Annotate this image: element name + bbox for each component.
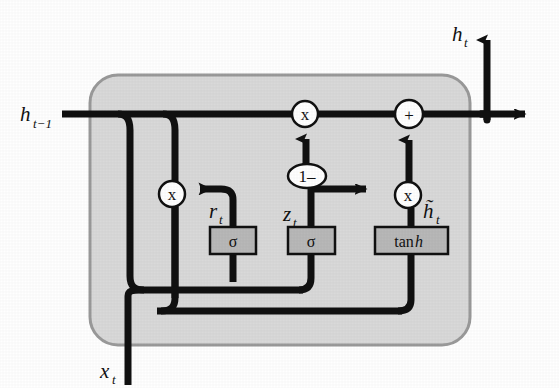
reset-gate-label: σ bbox=[229, 233, 238, 250]
label-output-hidden-state-subscript: t bbox=[464, 35, 468, 50]
label-prev-hidden-state: h t−1 bbox=[20, 102, 52, 131]
one-minus-symbol: 1– bbox=[299, 167, 317, 186]
label-input: x t bbox=[99, 359, 116, 387]
label-update-gate-base: z bbox=[282, 202, 291, 226]
forget-multiply-node[interactable]: x bbox=[292, 101, 318, 127]
one-minus-node[interactable]: 1– bbox=[288, 164, 326, 188]
gate-boxes-group: σ σ tan h bbox=[210, 227, 448, 254]
wire-output-corner bbox=[481, 114, 487, 120]
update-gate-box[interactable]: σ bbox=[288, 227, 335, 254]
label-input-base: x bbox=[99, 359, 110, 383]
candidate-multiply-node[interactable]: x bbox=[395, 182, 421, 208]
update-gate-label: σ bbox=[307, 233, 316, 250]
reset-gate-box[interactable]: σ bbox=[210, 227, 256, 254]
gru-diagram-figure: σ σ tan h x x x bbox=[0, 0, 559, 388]
candidate-gate-label: tan bbox=[394, 233, 414, 250]
reset-multiply-symbol: x bbox=[168, 185, 177, 204]
label-reset-gate-base: r bbox=[209, 199, 218, 223]
label-output-hidden-state-base: h bbox=[452, 22, 463, 46]
label-prev-hidden-state-base: h bbox=[20, 102, 31, 126]
sum-add-node[interactable]: + bbox=[395, 100, 423, 128]
reset-multiply-node[interactable]: x bbox=[159, 181, 185, 207]
label-reset-gate-subscript: t bbox=[219, 212, 223, 227]
label-update-gate-subscript: t bbox=[293, 215, 297, 230]
gru-diagram-canvas: σ σ tan h x x x bbox=[0, 0, 559, 388]
label-candidate-state-base: h̃ bbox=[423, 199, 434, 223]
label-input-subscript: t bbox=[112, 372, 116, 387]
label-candidate-state-subscript: t bbox=[436, 212, 440, 227]
candidate-gate-box[interactable]: tan h bbox=[375, 227, 448, 254]
label-output-hidden-state: h t bbox=[452, 22, 468, 50]
candidate-multiply-symbol: x bbox=[404, 186, 413, 205]
candidate-gate-label-italic: h bbox=[415, 233, 423, 250]
label-prev-hidden-state-subscript: t−1 bbox=[33, 116, 52, 131]
sum-add-symbol: + bbox=[404, 106, 414, 125]
forget-multiply-symbol: x bbox=[301, 105, 310, 124]
